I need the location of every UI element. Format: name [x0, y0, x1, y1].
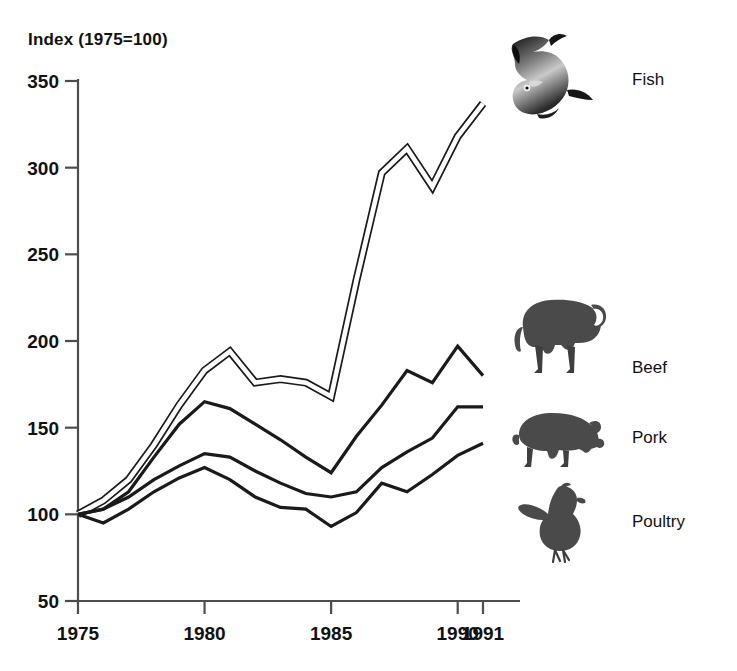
y-tick-label: 200 [27, 331, 59, 352]
y-tick-label: 350 [27, 71, 59, 92]
y-tick-label: 250 [27, 244, 59, 265]
legend-label-fish: Fish [632, 70, 664, 90]
legend-icon-beef [505, 283, 615, 378]
y-tick-label: 150 [27, 418, 59, 439]
y-tick-label: 50 [38, 591, 59, 612]
series-line-fish [78, 104, 483, 515]
chart-plot-area: 50100150200250300350 1975198019851990199… [0, 0, 737, 671]
legend-label-pork: Pork [632, 428, 667, 448]
series-line-poultry [78, 443, 483, 526]
legend-icon-poultry [505, 478, 615, 563]
legend-label-poultry: Poultry [632, 512, 685, 532]
chart-container: Index (1975=100) 50100150200250300350 19… [0, 0, 737, 671]
legend-icon-fish [505, 30, 615, 120]
x-tick-label: 1980 [183, 623, 225, 644]
chart-x-tick-labels: 19751980198519901991 [57, 623, 505, 644]
legend-label-beef: Beef [632, 358, 667, 378]
y-tick-label: 300 [27, 158, 59, 179]
x-tick-label: 1985 [310, 623, 353, 644]
x-tick-label: 1991 [462, 623, 505, 644]
chart-series [78, 104, 483, 527]
x-tick-label: 1975 [57, 623, 100, 644]
chart-y-tick-labels: 50100150200250300350 [27, 71, 59, 612]
legend-icon-pork [505, 405, 615, 475]
y-tick-label: 100 [27, 504, 59, 525]
chart-axes [65, 79, 520, 614]
